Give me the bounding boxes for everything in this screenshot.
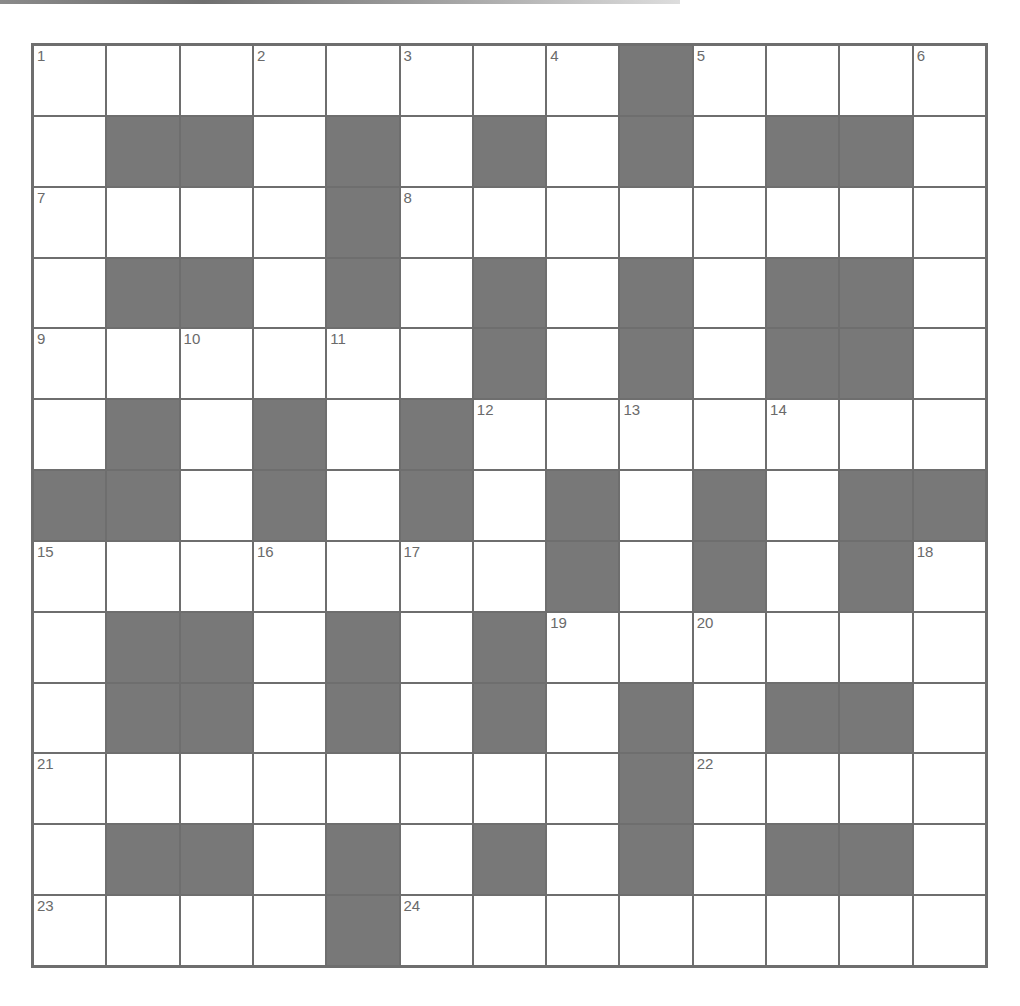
grid-cell[interactable] — [914, 117, 985, 186]
grid-cell[interactable] — [107, 754, 178, 823]
grid-cell[interactable] — [34, 117, 105, 186]
grid-cell[interactable]: 5 — [694, 46, 765, 115]
grid-cell[interactable] — [34, 684, 105, 753]
grid-cell[interactable] — [254, 329, 325, 398]
grid-cell[interactable] — [401, 329, 472, 398]
grid-cell[interactable]: 14 — [767, 400, 838, 469]
grid-cell[interactable] — [694, 896, 765, 965]
grid-cell[interactable] — [914, 400, 985, 469]
grid-cell[interactable] — [327, 542, 398, 611]
grid-cell[interactable] — [620, 613, 691, 682]
grid-cell[interactable] — [547, 754, 618, 823]
grid-cell[interactable] — [181, 188, 252, 257]
grid-cell[interactable] — [181, 400, 252, 469]
grid-cell[interactable] — [694, 329, 765, 398]
grid-cell[interactable]: 6 — [914, 46, 985, 115]
grid-cell[interactable] — [694, 117, 765, 186]
grid-cell[interactable] — [107, 329, 178, 398]
grid-cell[interactable]: 23 — [34, 896, 105, 965]
grid-cell[interactable] — [694, 825, 765, 894]
grid-cell[interactable] — [34, 825, 105, 894]
grid-cell[interactable] — [767, 46, 838, 115]
grid-cell[interactable] — [914, 329, 985, 398]
grid-cell[interactable] — [767, 613, 838, 682]
grid-cell[interactable] — [327, 46, 398, 115]
grid-cell[interactable]: 1 — [34, 46, 105, 115]
grid-cell[interactable] — [107, 188, 178, 257]
grid-cell[interactable] — [181, 542, 252, 611]
grid-cell[interactable] — [547, 896, 618, 965]
grid-cell[interactable] — [840, 613, 911, 682]
grid-cell[interactable]: 3 — [401, 46, 472, 115]
grid-cell[interactable] — [840, 400, 911, 469]
grid-cell[interactable] — [767, 471, 838, 540]
grid-cell[interactable] — [327, 754, 398, 823]
grid-cell[interactable]: 12 — [474, 400, 545, 469]
grid-cell[interactable] — [694, 188, 765, 257]
grid-cell[interactable]: 24 — [401, 896, 472, 965]
grid-cell[interactable]: 9 — [34, 329, 105, 398]
grid-cell[interactable] — [840, 896, 911, 965]
grid-cell[interactable] — [34, 613, 105, 682]
grid-cell[interactable]: 19 — [547, 613, 618, 682]
grid-cell[interactable] — [34, 259, 105, 328]
grid-cell[interactable] — [620, 188, 691, 257]
grid-cell[interactable] — [914, 754, 985, 823]
grid-cell[interactable]: 7 — [34, 188, 105, 257]
grid-cell[interactable] — [620, 896, 691, 965]
grid-cell[interactable] — [254, 613, 325, 682]
grid-cell[interactable] — [620, 542, 691, 611]
grid-cell[interactable] — [914, 613, 985, 682]
grid-cell[interactable]: 15 — [34, 542, 105, 611]
grid-cell[interactable] — [254, 754, 325, 823]
grid-cell[interactable] — [694, 684, 765, 753]
grid-cell[interactable]: 20 — [694, 613, 765, 682]
grid-cell[interactable] — [401, 754, 472, 823]
grid-cell[interactable] — [547, 117, 618, 186]
grid-cell[interactable] — [547, 400, 618, 469]
grid-cell[interactable]: 8 — [401, 188, 472, 257]
grid-cell[interactable] — [34, 400, 105, 469]
grid-cell[interactable] — [254, 117, 325, 186]
grid-cell[interactable]: 13 — [620, 400, 691, 469]
grid-cell[interactable] — [547, 259, 618, 328]
grid-cell[interactable]: 16 — [254, 542, 325, 611]
grid-cell[interactable]: 18 — [914, 542, 985, 611]
grid-cell[interactable] — [107, 896, 178, 965]
grid-cell[interactable] — [254, 896, 325, 965]
grid-cell[interactable] — [547, 684, 618, 753]
grid-cell[interactable] — [181, 46, 252, 115]
grid-cell[interactable] — [401, 825, 472, 894]
grid-cell[interactable] — [914, 825, 985, 894]
grid-cell[interactable] — [254, 825, 325, 894]
grid-cell[interactable]: 11 — [327, 329, 398, 398]
grid-cell[interactable] — [181, 754, 252, 823]
grid-cell[interactable] — [181, 471, 252, 540]
grid-cell[interactable] — [254, 188, 325, 257]
grid-cell[interactable] — [547, 188, 618, 257]
grid-cell[interactable] — [767, 896, 838, 965]
grid-cell[interactable]: 17 — [401, 542, 472, 611]
grid-cell[interactable] — [327, 400, 398, 469]
grid-cell[interactable] — [767, 754, 838, 823]
grid-cell[interactable] — [474, 896, 545, 965]
grid-cell[interactable]: 22 — [694, 754, 765, 823]
grid-cell[interactable] — [620, 471, 691, 540]
grid-cell[interactable] — [107, 542, 178, 611]
grid-cell[interactable] — [181, 896, 252, 965]
grid-cell[interactable] — [914, 259, 985, 328]
grid-cell[interactable] — [840, 188, 911, 257]
grid-cell[interactable] — [474, 542, 545, 611]
grid-cell[interactable] — [914, 188, 985, 257]
grid-cell[interactable] — [401, 684, 472, 753]
grid-cell[interactable] — [474, 754, 545, 823]
grid-cell[interactable] — [401, 117, 472, 186]
grid-cell[interactable] — [767, 188, 838, 257]
grid-cell[interactable] — [254, 684, 325, 753]
grid-cell[interactable] — [474, 188, 545, 257]
grid-cell[interactable] — [767, 542, 838, 611]
grid-cell[interactable] — [401, 613, 472, 682]
grid-cell[interactable] — [840, 754, 911, 823]
grid-cell[interactable] — [401, 259, 472, 328]
grid-cell[interactable]: 4 — [547, 46, 618, 115]
